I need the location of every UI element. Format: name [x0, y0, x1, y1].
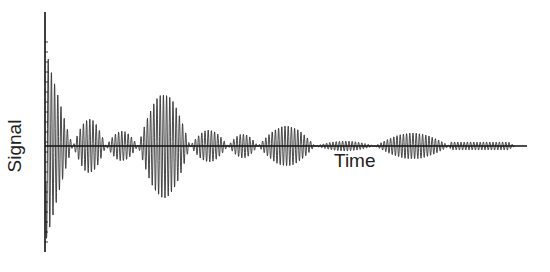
- signal-trace: [46, 59, 515, 238]
- y-axis-ticks: [45, 42, 48, 242]
- y-axis-label: Signal: [4, 106, 26, 186]
- signal-chart: [0, 0, 550, 272]
- x-axis-label: Time: [334, 150, 376, 172]
